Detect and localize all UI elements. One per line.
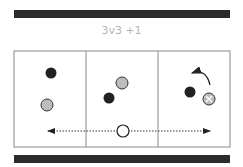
player-dark — [104, 93, 115, 104]
field-diagram — [0, 0, 243, 167]
bottom-bar — [14, 155, 230, 163]
player-dark — [185, 87, 196, 98]
player-dark — [46, 68, 57, 79]
player-light — [41, 99, 53, 111]
player-light — [116, 77, 128, 89]
player-neutral-floater — [117, 125, 129, 137]
player-light-marked — [203, 93, 215, 105]
rotation-arrow-icon — [192, 72, 210, 85]
